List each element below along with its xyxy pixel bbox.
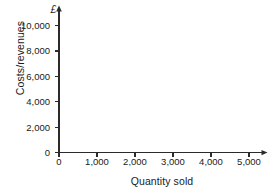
x-axis-arrowhead-icon xyxy=(262,150,268,155)
y-axis-arrowhead-icon xyxy=(56,6,62,12)
chart-figure: Costs/revenues £ 0 2,000 4,000 6,000 8,0… xyxy=(0,0,279,196)
axes-lines xyxy=(0,0,279,196)
